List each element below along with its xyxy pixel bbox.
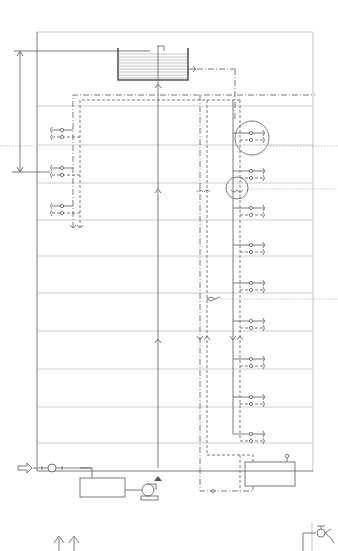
- tank-outlet: [188, 66, 235, 120]
- pump-icon: [141, 484, 158, 500]
- branch-group: [233, 318, 265, 331]
- floor-lines: [0, 106, 338, 443]
- hot-riser-left: [70, 95, 315, 228]
- branch-group: [51, 203, 81, 216]
- diagram-canvas: [0, 0, 338, 551]
- branch-group: [233, 356, 265, 369]
- branch-group: [233, 168, 265, 181]
- branch-group: [233, 394, 265, 407]
- left-branches: [51, 127, 81, 216]
- branch-group: [233, 130, 265, 143]
- meter-icon: [48, 464, 56, 472]
- branch-group: [233, 242, 265, 255]
- branch-group: [51, 127, 81, 140]
- branch-group: [233, 205, 265, 218]
- branch-group: [51, 165, 81, 178]
- building-frame: [37, 32, 313, 471]
- water-heater: [245, 462, 295, 486]
- storage-tank: [80, 478, 125, 497]
- roof-tank: [118, 45, 188, 80]
- supply-riser: [154, 46, 162, 481]
- relief-valve: [207, 297, 220, 301]
- branch-group: [233, 431, 265, 444]
- ground-equipment: [18, 454, 295, 500]
- legend-faucet-icon: [303, 522, 334, 551]
- legend-flow-arrows-icon: [54, 536, 79, 551]
- inlet-arrow-icon: [18, 463, 32, 473]
- branch-group: [233, 280, 265, 293]
- hot-riser-right: [197, 95, 243, 468]
- detail-circle-2: [226, 177, 248, 199]
